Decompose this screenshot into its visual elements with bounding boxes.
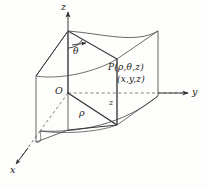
left-radial-face [36,31,68,142]
figure-drawing [0,0,207,187]
rho-label: ρ [79,108,85,118]
origin-label: O [55,86,63,96]
origin-marker [67,92,69,94]
z-axis-label: z [61,2,66,12]
x-axis-hidden-segment [40,93,68,131]
top-face-left-ray [36,31,68,76]
y-axis-label: y [192,87,197,97]
cylindrical-coordinates-figure: z y x O θ ρ z P(ρ,θ,z) (x,y,z) [0,0,207,187]
x-axis [16,93,68,164]
x-axis-line [16,148,28,164]
point-label-cylindrical: P(ρ,θ,z) [108,63,144,72]
theta-label: θ [73,47,78,56]
point-label-cartesian: (x,y,z) [117,75,145,84]
x-axis-label: x [10,165,15,175]
z-segment-label: z [109,99,113,107]
